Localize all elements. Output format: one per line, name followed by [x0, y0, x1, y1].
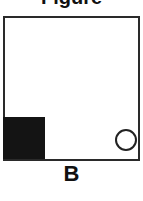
- open-circle-shape: [115, 129, 137, 151]
- black-square-shape: [3, 117, 45, 159]
- figure-title: Figure: [0, 0, 143, 7]
- panel-label: B: [0, 163, 143, 185]
